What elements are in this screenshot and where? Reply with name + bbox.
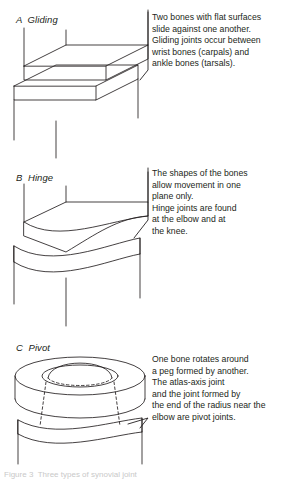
peg-hidden-base (48, 378, 112, 386)
lower-bone-concave-body (14, 238, 140, 272)
hinge-leader-bracket (134, 168, 148, 238)
upper-bone-front-face (24, 66, 106, 80)
figure-footer-caption: Figure 3 Three types of synovial joint (4, 470, 282, 480)
panel-hinge: B Hinge The shapes of the bones allow mo… (0, 158, 286, 340)
joint-types-figure: A Gliding Two bones with flat surfaces s… (0, 0, 286, 483)
pivot-lower-bone-body (18, 418, 142, 443)
peg-hidden-left-edge (40, 382, 46, 426)
panel-description-gliding: Two bones with flat surfaces slide again… (152, 12, 286, 70)
lower-bone-top-face (14, 65, 138, 86)
panel-gliding: A Gliding Two bones with flat surfaces s… (0, 0, 286, 158)
peg-hidden-right-edge (114, 382, 120, 426)
panel-description-pivot: One bone rotates around a peg formed by … (152, 354, 286, 424)
upper-bone-convex-edge (24, 216, 148, 231)
collar-outer-bottom-arc (15, 399, 145, 418)
upper-bone-top-face (24, 45, 148, 66)
panel-pivot: C Pivot (0, 340, 286, 465)
panel-description-hinge: The shapes of the bones allow movement i… (152, 168, 286, 238)
collar-inner-hole-ellipse (42, 365, 118, 387)
lower-bone-front-face (14, 86, 96, 100)
upper-bone-convex-body (24, 202, 148, 252)
